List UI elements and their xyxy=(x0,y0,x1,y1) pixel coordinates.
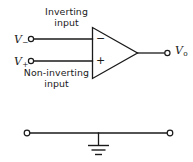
inverting-voltage-subscript: − xyxy=(22,38,28,47)
output-voltage-label: Vo xyxy=(175,45,187,56)
output-terminal[interactable] xyxy=(165,50,170,55)
noninverting-voltage-symbol: V xyxy=(14,55,22,68)
inverting-input-label: Inverting input xyxy=(37,6,96,29)
noninverting-input-terminal[interactable] xyxy=(28,58,33,63)
noninverting-input-label-line1: Non-inverting xyxy=(20,67,93,78)
noninverting-voltage-subscript: + xyxy=(22,60,28,69)
minus-sign-icon: − xyxy=(96,33,105,44)
inverting-input-voltage-label: V− xyxy=(14,34,28,45)
noninverting-input-label: Non-inverting input xyxy=(20,67,93,90)
ground-rail-right-terminal[interactable] xyxy=(167,130,173,136)
noninverting-input-voltage-label: V+ xyxy=(14,56,28,67)
output-voltage-subscript: o xyxy=(183,49,187,58)
inverting-input-label-line1: Inverting xyxy=(37,6,96,17)
ground-rail-left-terminal[interactable] xyxy=(24,130,30,136)
inverting-input-label-line2: input xyxy=(37,17,96,28)
inverting-input-terminal[interactable] xyxy=(28,36,33,41)
plus-sign-icon: + xyxy=(96,55,105,66)
inverting-voltage-symbol: V xyxy=(14,33,22,46)
opamp-schematic-figure: Inverting input Non-inverting input V− V… xyxy=(0,0,193,162)
output-voltage-symbol: V xyxy=(175,44,183,57)
noninverting-input-label-line2: input xyxy=(20,78,93,89)
